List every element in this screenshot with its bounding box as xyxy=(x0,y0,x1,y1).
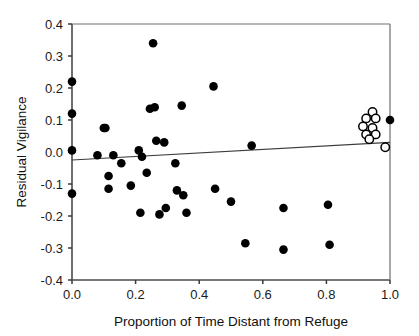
y-tick-label: 0.4 xyxy=(45,17,63,32)
data-point-filled xyxy=(101,124,110,133)
data-point-filled xyxy=(177,101,186,110)
y-tick-label: 0.3 xyxy=(45,49,63,64)
data-point-filled xyxy=(104,172,113,181)
data-point-filled xyxy=(209,82,218,91)
data-point-filled xyxy=(247,141,256,150)
x-axis-title: Proportion of Time Distant from Refuge xyxy=(114,314,348,329)
y-axis-title: Residual Vigilance xyxy=(14,97,29,208)
data-point-filled xyxy=(142,169,151,178)
data-point-filled xyxy=(68,77,77,86)
data-point-filled xyxy=(179,191,188,200)
x-tick-label: 0.8 xyxy=(317,287,335,302)
data-point-filled xyxy=(241,239,250,248)
data-point-open xyxy=(371,114,379,122)
data-point-filled xyxy=(386,116,395,125)
data-point-filled xyxy=(127,181,136,190)
y-tick-label: 0.0 xyxy=(45,145,63,160)
data-point-filled xyxy=(138,153,147,162)
data-point-open xyxy=(359,122,367,130)
data-point-filled xyxy=(117,159,126,168)
data-point-filled xyxy=(227,197,236,206)
y-tick-label: -0.1 xyxy=(41,177,63,192)
data-point-filled xyxy=(279,204,288,213)
data-point-filled xyxy=(68,109,77,118)
data-point-filled xyxy=(211,185,220,194)
y-tick-label: -0.4 xyxy=(41,273,63,288)
data-point-filled xyxy=(182,209,191,218)
data-point-filled xyxy=(324,201,333,210)
x-tick-label: 0.4 xyxy=(190,287,208,302)
data-point-filled xyxy=(150,103,159,112)
data-point-open xyxy=(381,143,389,151)
data-point-filled xyxy=(68,189,77,198)
chart-page: -0.4-0.3-0.2-0.10.00.10.20.30.40.00.20.4… xyxy=(0,0,419,336)
data-point-filled xyxy=(162,204,171,213)
data-point-filled xyxy=(68,146,77,155)
scatter-plot: -0.4-0.3-0.2-0.10.00.10.20.30.40.00.20.4… xyxy=(0,0,419,336)
y-tick-label: 0.2 xyxy=(45,81,63,96)
data-point-filled xyxy=(155,210,164,219)
data-point-open xyxy=(362,114,370,122)
data-point-filled xyxy=(325,241,334,250)
regression-line xyxy=(72,142,390,160)
x-tick-label: 0.0 xyxy=(63,287,81,302)
regression-line-path xyxy=(72,142,390,160)
y-tick-label: -0.2 xyxy=(41,209,63,224)
data-point-open xyxy=(365,135,373,143)
x-tick-label: 0.2 xyxy=(127,287,145,302)
data-point-filled xyxy=(160,138,169,147)
x-tick-label: 0.6 xyxy=(254,287,272,302)
data-point-filled xyxy=(279,245,288,254)
data-point-filled xyxy=(136,209,145,218)
axes-group xyxy=(72,24,390,280)
data-points-group xyxy=(68,39,395,254)
data-point-filled xyxy=(171,159,180,168)
data-point-filled xyxy=(109,151,118,160)
y-tick-label: -0.3 xyxy=(41,241,63,256)
data-point-filled xyxy=(149,39,158,48)
data-point-filled xyxy=(93,151,102,160)
x-tick-label: 1.0 xyxy=(381,287,399,302)
data-point-filled xyxy=(152,137,161,146)
y-tick-label: 0.1 xyxy=(45,113,63,128)
data-point-filled xyxy=(104,185,113,194)
